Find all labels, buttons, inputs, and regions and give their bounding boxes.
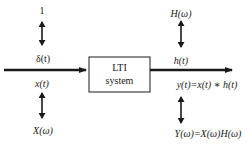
lti-system-diagram: LTI system 1 δ(t) x(t) X(ω) H(ω) h(t) y(… — [0, 0, 247, 145]
output-spectrum-label: Y(ω)=X(ω)H(ω) — [175, 128, 242, 140]
impulse-response-label: h(t) — [174, 55, 189, 67]
unit-label: 1 — [40, 5, 45, 16]
block-label-line2: system — [106, 75, 134, 86]
frequency-response-label: H(ω) — [170, 8, 193, 20]
input-spectrum-label: X(ω) — [32, 125, 53, 137]
input-signal-label: x(t) — [34, 78, 50, 90]
impulse-label: δ(t) — [36, 53, 50, 65]
output-signal-label: y(t)=x(t) ∗ h(t) — [176, 79, 238, 91]
block-label-line1: LTI — [112, 62, 127, 73]
